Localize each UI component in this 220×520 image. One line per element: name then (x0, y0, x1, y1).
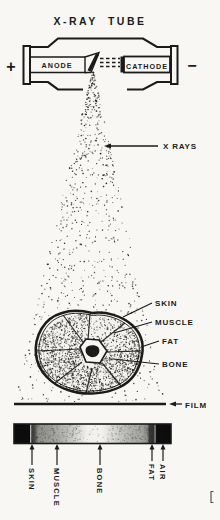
strip-muscle-callout: MUSCLE (52, 444, 61, 507)
strip-muscle-label: MUSCLE (52, 468, 61, 507)
strip-callouts: SKIN MUSCLE BONE FAT AIR (27, 444, 167, 507)
fat-label: FAT (162, 337, 179, 346)
xray-beam-callout: X RAYS (104, 142, 197, 151)
strip-fat-label: FAT (147, 464, 156, 481)
skin-label: SKIN (155, 299, 177, 308)
left-arrow-icon (169, 402, 176, 407)
strip-skin-callout: SKIN (27, 444, 36, 491)
strip-skin-label: SKIN (27, 468, 36, 491)
electron-beam-dashes (100, 59, 120, 67)
limb-cross-section: SKIN MUSCLE FAT BONE (36, 299, 194, 394)
bone-label: BONE (162, 360, 188, 369)
film-density-strip (14, 424, 171, 444)
tube-left-cap (24, 46, 31, 84)
diagram-canvas: X-RAY TUBE + − ANODE CATHODE X RAYS (0, 0, 220, 520)
figure-title: X-RAY TUBE (53, 15, 146, 27)
xray-tube: + − ANODE CATHODE (6, 39, 196, 90)
fat-leader-line (141, 341, 159, 347)
skin-leader-line (123, 303, 152, 317)
cathode-label: CATHODE (126, 62, 168, 71)
anode-label: ANODE (42, 61, 73, 70)
film-label: FILM (185, 401, 207, 410)
strip-bone-label: BONE (95, 468, 104, 494)
xrays-label: X RAYS (163, 142, 197, 151)
tube-right-cap (171, 46, 178, 84)
page-bracket-mark (211, 492, 214, 503)
strip-fat-callout: FAT (147, 444, 156, 481)
strip-bone-callout: BONE (95, 444, 104, 494)
cathode-polarity-minus: − (187, 57, 196, 74)
xray-diagram-figure: X-RAY TUBE + − ANODE CATHODE X RAYS (0, 0, 220, 520)
anode-polarity-plus: + (6, 58, 15, 75)
film-plane: FILM (14, 401, 207, 410)
strip-air-label: AIR (158, 464, 167, 481)
muscle-label: MUSCLE (155, 318, 194, 327)
strip-air-callout: AIR (158, 444, 167, 481)
